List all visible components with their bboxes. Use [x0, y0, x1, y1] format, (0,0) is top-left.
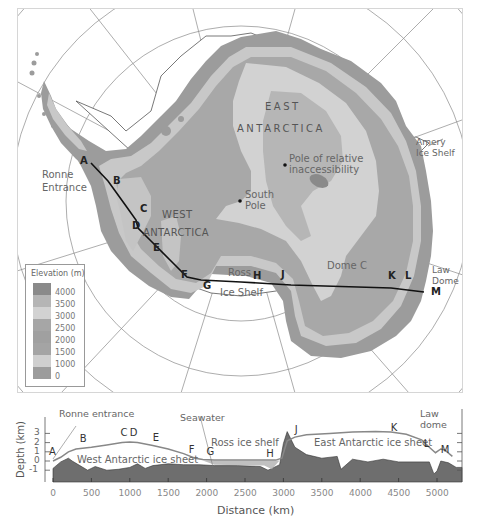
legend-value: 2500: [55, 324, 75, 333]
legend-swatch: [33, 319, 51, 331]
map-point-k: K: [388, 271, 396, 281]
legend-swatch: [33, 307, 51, 319]
legend-title: Elevation (m): [31, 269, 85, 278]
x-tick-label: 0: [50, 488, 56, 499]
legend-value: 1500: [55, 348, 75, 357]
x-tick-label: 2500: [234, 488, 257, 499]
south-pole-label: SouthPole: [245, 189, 274, 211]
legend-swatch: [33, 283, 51, 295]
map-point-f: F: [181, 270, 188, 280]
east-antarctica-label-2: ANTARCTICA: [237, 123, 325, 134]
x-tick-label: 1000: [119, 488, 142, 499]
x-tick-label: 4000: [349, 488, 372, 499]
legend-swatch: [33, 331, 51, 343]
west-ice-sheet-annot: West Antarctic ice sheet: [77, 454, 198, 465]
x-tick-label: 1500: [157, 488, 180, 499]
x-tick-label: 3000: [272, 488, 295, 499]
x-tick-label: 5000: [426, 488, 449, 499]
west-antarctica-label-2: ANTARCTICA: [143, 227, 209, 238]
legend-swatch: [33, 343, 51, 355]
ronne-entrance-label: RonneEntrance: [42, 168, 87, 194]
pole-of-inaccessibility-label: Pole of relativeinaccessibility: [289, 153, 363, 175]
east-antarctica-label-1: EAST: [265, 101, 301, 112]
profile-point-f: F: [189, 445, 195, 455]
ronne-entrance-annot: Ronne entrance: [59, 408, 134, 419]
map-point-h: H: [253, 271, 261, 281]
dome-c-label: Dome C: [327, 260, 367, 271]
map-point-a: A: [80, 156, 88, 166]
map-point-c: C: [140, 204, 147, 214]
legend-value: 3500: [55, 300, 75, 309]
law-dome-label: LawDome: [432, 265, 459, 287]
west-antarctica-label-1: WEST: [162, 209, 193, 220]
x-tick-label: 500: [83, 488, 100, 499]
profile-point-h: H: [266, 449, 274, 459]
legend-value: 4000: [55, 288, 75, 297]
ross-ice-shelf-label: Ice Shelf: [220, 287, 263, 298]
legend-value: 1000: [55, 360, 75, 369]
east-ice-sheet-annot: East Antarctic ice sheet: [314, 437, 432, 448]
x-tick-label: 3500: [311, 488, 334, 499]
map-point-g: G: [203, 281, 211, 291]
map-point-d: D: [132, 221, 140, 231]
x-axis-title: Distance (km): [217, 505, 294, 516]
y-tick-label: -1: [29, 464, 38, 475]
profile-point-e: E: [153, 433, 159, 443]
map-point-e: E: [153, 243, 160, 253]
seawater-annot: Seawater: [180, 412, 225, 423]
profile-point-j: J: [295, 425, 298, 435]
legend-value: 0: [55, 372, 60, 381]
legend-swatch: [33, 367, 51, 379]
map-point-l: L: [405, 271, 411, 281]
amery-ice-shelf-label: AmeryIce Shelf: [416, 137, 455, 159]
law-dome-annot: Law dome: [420, 408, 452, 430]
profile-point-k: K: [391, 423, 398, 433]
map-point-b: B: [113, 176, 121, 186]
profile-point-d: D: [130, 428, 138, 438]
elevation-legend: Elevation (m) 40003500300025002000150010…: [25, 264, 85, 387]
map-point-j: J: [281, 270, 285, 280]
legend-value: 2000: [55, 336, 75, 345]
legend-swatch: [33, 355, 51, 367]
map-point-m: M: [431, 287, 441, 297]
profile-point-b: B: [80, 434, 87, 444]
profile-point-a: A: [49, 447, 56, 457]
ross-label: Ross: [228, 267, 251, 278]
x-tick-label: 2000: [195, 488, 218, 499]
legend-swatch: [33, 295, 51, 307]
profile-point-c: C: [120, 428, 127, 438]
legend-value: 3000: [55, 312, 75, 321]
y-axis-title: Depth (km): [15, 421, 26, 478]
profile-point-m: M: [441, 445, 450, 455]
profile-point-g: G: [206, 447, 214, 457]
ross-ice-shelf-annot: Ross ice shelf: [211, 437, 279, 448]
profile-point-l: L: [424, 439, 430, 449]
x-tick-label: 4500: [387, 488, 410, 499]
